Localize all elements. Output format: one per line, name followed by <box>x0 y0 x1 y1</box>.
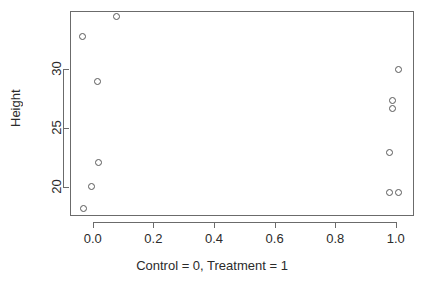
x-axis-tick <box>275 222 276 228</box>
x-axis-tick-label: 0.4 <box>205 231 223 246</box>
y-axis-tick <box>63 187 69 188</box>
y-axis-tick-label: 30 <box>49 57 64 79</box>
y-axis-title: Height <box>4 78 28 138</box>
y-axis-tick <box>63 128 69 129</box>
x-axis-tick-label: 0.0 <box>84 231 102 246</box>
x-axis-tick-label: 0.2 <box>144 231 162 246</box>
y-axis-tick-label: 25 <box>49 116 64 138</box>
x-axis-title: Control = 0, Treatment = 1 <box>0 258 424 273</box>
x-axis-tick-label: 0.8 <box>326 231 344 246</box>
plot-frame <box>70 11 414 216</box>
x-axis-line <box>93 222 396 223</box>
x-axis-tick-label: 1.0 <box>387 231 405 246</box>
x-axis-tick <box>153 222 154 228</box>
x-axis-tick <box>93 222 94 228</box>
scatter-plot-figure: 202530 0.00.20.40.60.81.0 Height Control… <box>0 0 424 287</box>
x-axis-tick <box>335 222 336 228</box>
y-axis-tick-label: 20 <box>49 175 64 197</box>
x-axis-tick-label: 0.6 <box>266 231 284 246</box>
x-axis-tick <box>214 222 215 228</box>
x-axis-tick <box>396 222 397 228</box>
y-axis-tick <box>63 69 69 70</box>
